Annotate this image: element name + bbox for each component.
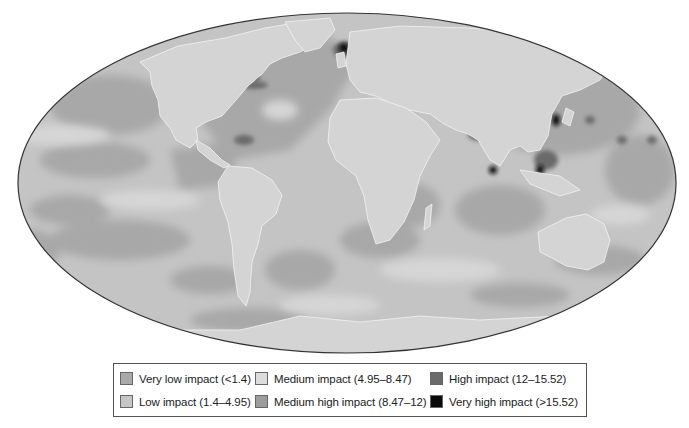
legend-item-very-low: Very low impact (<1.4) <box>120 372 251 385</box>
world-impact-map <box>0 0 689 360</box>
legend-label: Very high impact (>15.52) <box>449 396 578 408</box>
swatch-very-low <box>120 372 133 385</box>
swatch-very-high <box>430 395 443 408</box>
legend-label: Very low impact (<1.4) <box>139 373 251 385</box>
legend-label: Medium high impact (8.47–12) <box>274 396 427 408</box>
legend-item-very-high: Very high impact (>15.52) <box>430 395 578 408</box>
legend-item-high: High impact (12–15.52) <box>430 372 566 385</box>
legend-item-low: Low impact (1.4–4.95) <box>120 395 251 408</box>
swatch-medium <box>255 372 268 385</box>
legend-label: Medium impact (4.95–8.47) <box>274 373 411 385</box>
legend-item-medium: Medium impact (4.95–8.47) <box>255 372 411 385</box>
map-legend: Very low impact (<1.4) Low impact (1.4–4… <box>113 363 587 417</box>
legend-item-medium-high: Medium high impact (8.47–12) <box>255 395 427 408</box>
legend-label: Low impact (1.4–4.95) <box>139 396 251 408</box>
swatch-medium-high <box>255 395 268 408</box>
swatch-low <box>120 395 133 408</box>
ocean-layer <box>0 0 689 360</box>
swatch-high <box>430 372 443 385</box>
legend-label: High impact (12–15.52) <box>449 373 566 385</box>
